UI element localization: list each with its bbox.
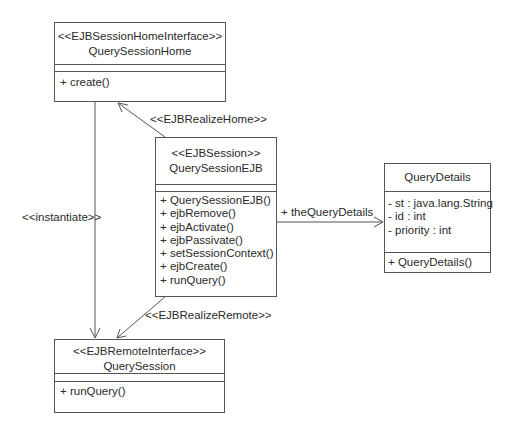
- realize-home-label: <<EJBRealizeHome>>: [150, 113, 267, 125]
- class-query-details[interactable]: QueryDetails - st : java.lang.String - i…: [384, 163, 491, 273]
- class-query-session[interactable]: <<EJBRemoteInterface>> QuerySession + ru…: [54, 339, 225, 413]
- operation: + ejbPassivate(): [160, 234, 276, 247]
- attributes-section: [156, 184, 276, 191]
- class-header: QueryDetails: [385, 164, 490, 191]
- operation: + QuerySessionEJB(): [160, 194, 276, 207]
- operations-section: + runQuery(): [55, 381, 224, 398]
- attribute: - id : int: [388, 210, 490, 223]
- operation: + ejbRemove(): [160, 207, 276, 220]
- stereotype: <<EJBSessionHomeInterface>>: [55, 29, 225, 44]
- association-role-label: + theQueryDetails: [281, 206, 373, 218]
- operation: + runQuery(): [60, 385, 224, 398]
- operations-section: + QuerySessionEJB() + ejbRemove() + ejbA…: [156, 191, 276, 287]
- class-name: QuerySessionEJB: [156, 161, 276, 176]
- operation: + ejbActivate(): [160, 221, 276, 234]
- class-query-session-ejb[interactable]: <<EJBSession>> QuerySessionEJB + QuerySe…: [155, 137, 277, 297]
- operation: + create(): [60, 76, 225, 89]
- attributes-section: - st : java.lang.String - id : int - pri…: [385, 191, 490, 252]
- operations-section: + create(): [55, 71, 225, 89]
- operation: + QueryDetails(): [388, 256, 490, 269]
- class-header: <<EJBSession>> QuerySessionEJB: [156, 138, 276, 184]
- class-query-session-home[interactable]: <<EJBSessionHomeInterface>> QuerySession…: [54, 22, 226, 102]
- operations-section: + QueryDetails(): [385, 252, 490, 269]
- operation: + setSessionContext(): [160, 247, 276, 260]
- stereotype: <<EJBRemoteInterface>>: [55, 344, 224, 359]
- class-name: QueryDetails: [385, 170, 490, 185]
- stereotype: <<EJBSession>>: [156, 146, 276, 161]
- class-name: QuerySession: [55, 359, 224, 374]
- class-header: <<EJBSessionHomeInterface>> QuerySession…: [55, 23, 225, 64]
- instantiate-label: <<instantiate>>: [22, 211, 101, 223]
- class-header: <<EJBRemoteInterface>> QuerySession: [55, 340, 224, 373]
- realize-remote-label: <<EJBRealizeRemote>>: [145, 309, 272, 321]
- operation: + ejbCreate(): [160, 260, 276, 273]
- attribute: - priority : int: [388, 224, 490, 237]
- attributes-section: [55, 373, 224, 381]
- attributes-section: [55, 64, 225, 71]
- attribute: - st : java.lang.String: [388, 197, 490, 210]
- operation: + runQuery(): [160, 274, 276, 287]
- class-name: QuerySessionHome: [55, 44, 225, 59]
